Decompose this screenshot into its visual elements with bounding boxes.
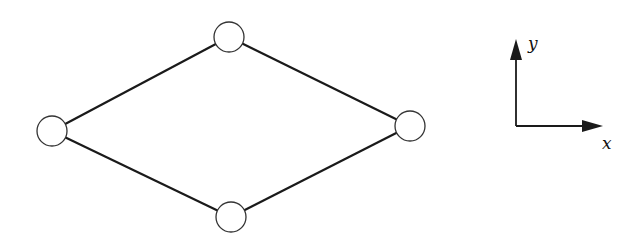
node-bottom bbox=[216, 202, 246, 232]
edge-right-bottom bbox=[231, 126, 410, 217]
node-top bbox=[214, 22, 244, 52]
nodes bbox=[37, 22, 425, 232]
node-right bbox=[395, 111, 425, 141]
y-axis-label: y bbox=[527, 33, 538, 53]
y-axis-arrowhead-icon bbox=[510, 39, 522, 60]
diagram-canvas: y x bbox=[0, 0, 641, 252]
node-left bbox=[37, 116, 67, 146]
x-axis-label: x bbox=[602, 133, 612, 153]
x-axis-arrowhead-icon bbox=[582, 120, 603, 132]
edge-bottom-left bbox=[52, 131, 231, 217]
edge-top-right bbox=[229, 37, 410, 126]
edges bbox=[52, 37, 410, 217]
edge-left-top bbox=[52, 37, 229, 131]
coordinate-axes: y x bbox=[510, 33, 612, 153]
